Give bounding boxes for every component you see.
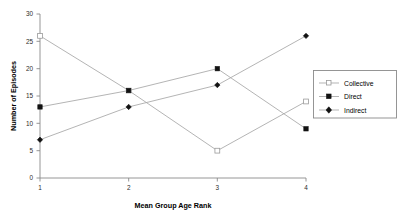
y-tick-label: 30 [26, 10, 34, 17]
series-line-collective [40, 36, 306, 151]
line-chart-plot: 0 5 10 15 20 25 30 1 2 3 4 Mean Group Ag… [0, 0, 398, 217]
data-point-filled-square [215, 66, 219, 70]
legend-label-direct: Direct [344, 93, 362, 100]
y-tick-label: 25 [26, 38, 34, 45]
x-tick-label: 2 [127, 184, 131, 191]
data-point-filled-diamond [37, 137, 42, 142]
data-point-open-square [215, 148, 220, 153]
y-tick-label: 15 [26, 92, 34, 99]
data-point-filled-diamond [303, 33, 308, 38]
data-point-filled-square [38, 105, 42, 109]
y-tick-label: 20 [26, 65, 34, 72]
series-line-indirect [40, 36, 306, 140]
data-point-filled-square [126, 88, 130, 92]
data-point-open-square [304, 99, 309, 104]
y-tick-label: 5 [29, 147, 33, 154]
chart-container: 0 5 10 15 20 25 30 1 2 3 4 Mean Group Ag… [0, 0, 398, 217]
y-tick-label: 0 [29, 174, 33, 181]
x-axis-ticks [40, 178, 306, 182]
x-axis-title: Mean Group Age Rank [135, 201, 212, 210]
y-tick-label: 10 [26, 120, 34, 127]
series-line-direct [40, 69, 306, 129]
data-point-filled-square [304, 127, 308, 131]
filled-square-icon [327, 94, 332, 99]
series-direct [38, 66, 308, 131]
data-point-filled-diamond [215, 82, 220, 87]
series-indirect [37, 33, 308, 142]
legend-label-indirect: Indirect [344, 107, 366, 114]
y-axis-title: Number of Episodes [9, 61, 18, 131]
data-point-open-square [38, 33, 43, 38]
series-collective [38, 33, 309, 153]
x-tick-label: 3 [216, 184, 220, 191]
x-axis-tick-labels: 1 2 3 4 [38, 184, 308, 191]
data-point-filled-diamond [126, 104, 131, 109]
x-tick-label: 4 [304, 184, 308, 191]
x-tick-label: 1 [38, 184, 42, 191]
open-square-icon [326, 80, 331, 85]
legend-label-collective: Collective [344, 80, 374, 87]
y-axis-tick-labels: 0 5 10 15 20 25 30 [26, 10, 34, 181]
series-layer [37, 33, 308, 153]
